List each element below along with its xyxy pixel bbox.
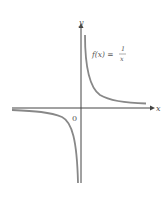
x-axis-label: x	[156, 104, 161, 113]
x-axis-arrow-icon	[150, 106, 155, 111]
function-label-denominator: x	[120, 55, 124, 63]
curve-negative-branch	[12, 110, 78, 183]
function-label-numerator: 1	[121, 45, 125, 53]
function-label-lhs: f(x) =	[91, 50, 114, 59]
y-axis-label: y	[78, 18, 84, 27]
hyperbola-graph: y x 0 f(x) = 1 x	[0, 0, 164, 198]
curve-positive-branch	[85, 35, 146, 104]
origin-label: 0	[72, 114, 77, 123]
